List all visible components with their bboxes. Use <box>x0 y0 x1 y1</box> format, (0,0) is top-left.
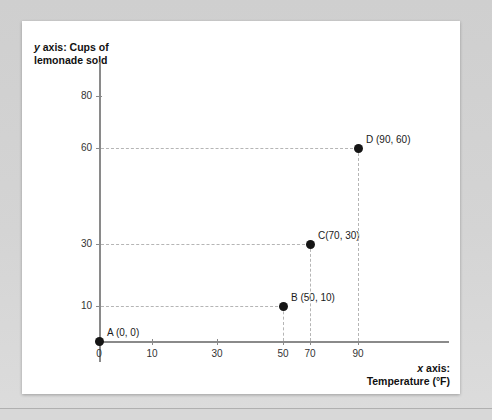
x-axis-tick <box>217 339 218 345</box>
data-point-label-b: B (50, 10) <box>291 292 335 303</box>
chart-panel: y axis: Cups of lemonade sold x axis: Te… <box>22 21 460 394</box>
data-point-d <box>354 144 363 153</box>
data-point-label-d: D (90, 60) <box>366 134 410 145</box>
y-axis-tick-label: 80 <box>62 90 92 101</box>
x-axis-tick-label: 50 <box>268 348 298 359</box>
point-guide-vertical <box>358 148 359 341</box>
y-axis-tick-label: 30 <box>62 238 92 249</box>
x-axis-tick-label: 0 <box>84 348 114 359</box>
data-point-b <box>279 302 288 311</box>
bottom-divider <box>0 408 492 420</box>
y-axis-tick <box>96 96 102 97</box>
y-axis-tick-label: 60 <box>62 142 92 153</box>
point-guide-horizontal <box>101 148 358 149</box>
point-guide-vertical <box>310 244 311 341</box>
y-axis-title-line2: lemonade sold <box>34 54 108 66</box>
y-axis-title: y axis: Cups of lemonade sold <box>34 41 109 67</box>
point-guide-horizontal <box>101 244 310 245</box>
x-axis-tick-label: 10 <box>137 348 167 359</box>
x-axis-tick-label: 90 <box>343 348 373 359</box>
x-axis-tick <box>152 339 153 345</box>
scatter-plot: y axis: Cups of lemonade sold x axis: Te… <box>22 21 460 394</box>
point-guide-vertical <box>283 306 284 341</box>
y-axis-title-line1: axis: Cups of <box>40 41 109 53</box>
x-axis-tick-label: 70 <box>295 348 325 359</box>
x-axis-tick-label: 30 <box>202 348 232 359</box>
point-guide-horizontal <box>101 306 283 307</box>
x-axis-title-line1: axis: <box>423 362 450 374</box>
data-point-a <box>95 337 104 346</box>
data-point-label-a: A (0, 0) <box>107 327 139 338</box>
data-point-label-c: C(70, 30) <box>318 230 360 241</box>
x-axis-title: x axis: Temperature (°F) <box>322 362 450 388</box>
data-point-c <box>306 240 315 249</box>
y-axis-tick-label: 10 <box>62 300 92 311</box>
x-axis-title-line2: Temperature (°F) <box>367 375 450 387</box>
y-axis-line <box>99 62 101 362</box>
